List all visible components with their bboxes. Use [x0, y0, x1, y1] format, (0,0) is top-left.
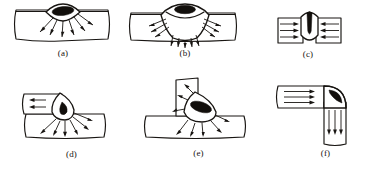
panel-e: (e): [136, 78, 261, 168]
panel-f: (f): [268, 80, 363, 168]
panel-f-drawing: [268, 80, 363, 154]
panel-e-label: (e): [136, 148, 261, 158]
panel-b: (b): [125, 2, 245, 64]
panel-b-drawing: [125, 2, 245, 50]
panel-b-label: (b): [125, 48, 245, 58]
panel-d-drawing: [14, 88, 129, 150]
panel-d: (d): [14, 88, 129, 168]
panel-d-label: (d): [14, 149, 129, 159]
weld-core-c: [307, 12, 312, 35]
panel-c-label: (c): [258, 49, 358, 59]
panel-f-label: (f): [278, 148, 365, 158]
panel-a: (a): [8, 2, 118, 64]
panel-c: (c): [258, 5, 358, 65]
heat-arrows-f-horizontal: [284, 90, 315, 105]
panel-c-drawing: [258, 5, 358, 51]
panel-a-drawing: [8, 2, 118, 50]
welding-joint-figure: (a): [0, 0, 365, 173]
panel-a-label: (a): [8, 48, 118, 58]
weld-core-b: [175, 5, 196, 13]
panel-e-drawing: [136, 78, 261, 150]
